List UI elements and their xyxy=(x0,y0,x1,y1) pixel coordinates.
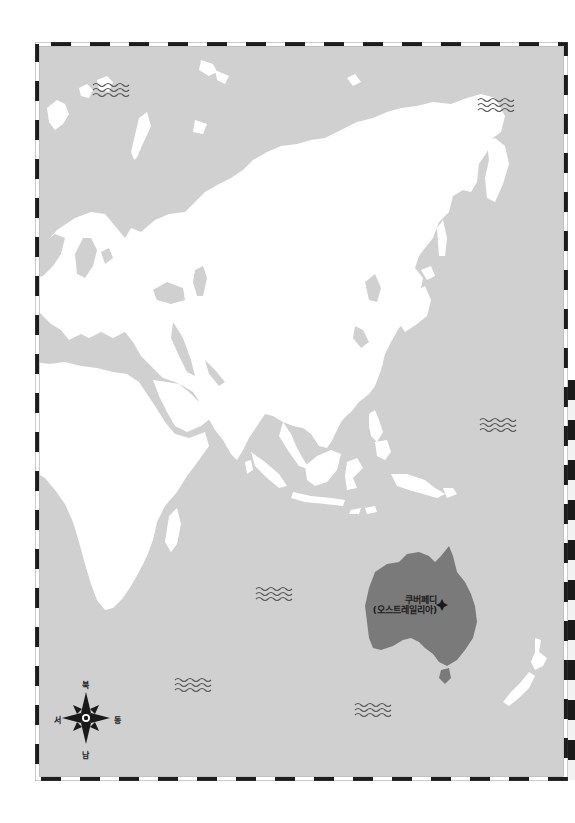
compass-north-label: 북 xyxy=(82,679,89,690)
compass-south-label: 남 xyxy=(82,749,89,760)
location-label: 쿠버페디 (오스트레일리아) xyxy=(353,595,437,615)
page-edge-strip xyxy=(568,380,575,780)
map-frame: 쿠버페디 (오스트레일리아) 북 남 서 동 xyxy=(35,42,568,781)
compass-east-label: 동 xyxy=(114,714,121,725)
location-country: (오스트레일리아) xyxy=(353,605,437,615)
world-map xyxy=(35,42,568,781)
compass-west-label: 서 xyxy=(54,714,61,725)
location-name: 쿠버페디 xyxy=(353,595,437,605)
